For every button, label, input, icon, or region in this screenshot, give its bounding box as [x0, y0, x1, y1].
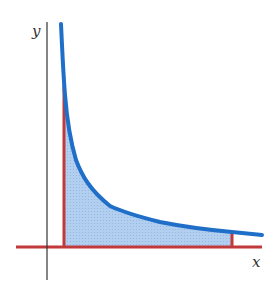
- y-axis-label: y: [31, 22, 41, 40]
- area-under-curve-diagram: y x: [0, 0, 280, 290]
- shaded-area: [64, 85, 232, 247]
- x-axis-label: x: [252, 253, 261, 271]
